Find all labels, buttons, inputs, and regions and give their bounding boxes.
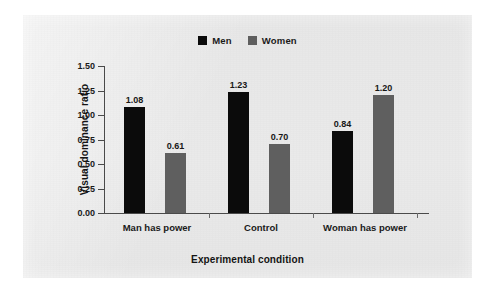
y-tick-mark xyxy=(98,91,105,92)
bar-value-label: 1.08 xyxy=(126,96,144,105)
bar-value-label: 0.84 xyxy=(334,120,352,129)
x-group-separator-tick xyxy=(209,213,210,218)
x-category-label-man-has-power: Man has power xyxy=(123,223,192,233)
x-group-separator-tick xyxy=(313,213,314,218)
bar-men-man-has-power: 1.08 xyxy=(124,107,145,213)
legend-swatch-women xyxy=(248,36,257,45)
bar-women-man-has-power: 0.61 xyxy=(165,153,186,213)
bar-value-label: 1.23 xyxy=(230,81,248,90)
bar-men-control: 1.23 xyxy=(228,92,249,213)
x-category-label-woman-has-power: Woman has power xyxy=(323,223,407,233)
bar-women-woman-has-power: 1.20 xyxy=(373,95,394,213)
bar-value-label: 1.20 xyxy=(375,84,393,93)
bar-women-control: 0.70 xyxy=(269,144,290,213)
legend-label-women: Women xyxy=(262,36,297,46)
legend-label-men: Men xyxy=(212,36,232,46)
y-axis-title: Visual dominance ratio xyxy=(78,66,92,213)
y-tick-mark xyxy=(98,213,105,214)
chart-screenshot: Men Women 1.50 1.25 1.00 0.75 0.50 0.25 xyxy=(0,0,496,296)
x-axis-line xyxy=(104,213,429,214)
y-tick-mark xyxy=(98,66,105,67)
bar-value-label: 0.70 xyxy=(271,133,289,142)
y-tick-mark xyxy=(98,164,105,165)
y-tick-mark xyxy=(98,115,105,116)
legend-entry-women: Women xyxy=(248,36,297,46)
plot-area: 1.50 1.25 1.00 0.75 0.50 0.25 0.00 1.08 … xyxy=(105,66,429,213)
legend-swatch-men xyxy=(198,36,207,45)
y-tick-mark xyxy=(98,189,105,190)
x-group-separator-tick xyxy=(417,213,418,218)
bar-value-label: 0.61 xyxy=(167,142,185,151)
x-axis-title: Experimental condition xyxy=(23,254,472,265)
legend-entry-men: Men xyxy=(198,36,232,46)
y-tick-mark xyxy=(98,140,105,141)
x-category-label-control: Control xyxy=(244,223,278,233)
figure-panel: Men Women 1.50 1.25 1.00 0.75 0.50 0.25 xyxy=(23,15,472,278)
bar-men-woman-has-power: 0.84 xyxy=(332,131,353,213)
chart-legend: Men Women xyxy=(23,36,472,46)
